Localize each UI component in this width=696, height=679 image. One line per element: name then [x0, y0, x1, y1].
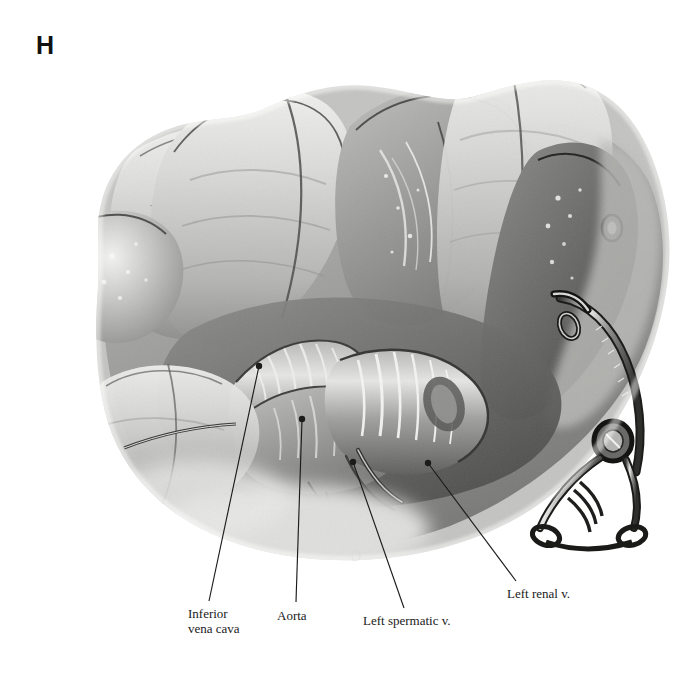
callout-label-left-spermatic-vein: Left spermatic v. — [363, 613, 451, 628]
callout-label-aorta: Aorta — [277, 608, 307, 623]
callout-label-inferior-vena-cava: Inferior vena cava — [188, 606, 240, 636]
callout-label-left-renal-vein: Left renal v. — [507, 586, 570, 601]
figure-root: H — [0, 0, 696, 679]
anatomical-illustration — [40, 30, 680, 575]
